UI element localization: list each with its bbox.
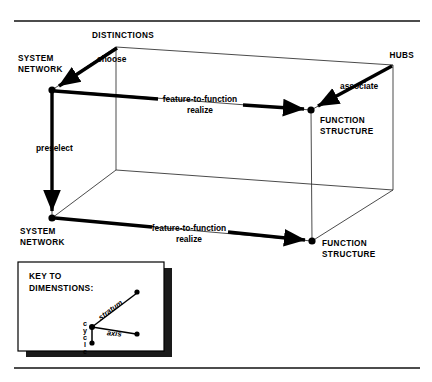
relation-label-realize-upper-line2: realize (187, 105, 213, 115)
relation-label-associate: associate (340, 81, 379, 91)
corner-label-top-front-right-line1: FUNCTION (320, 116, 365, 125)
relation-label-preselect: preselect (36, 143, 73, 153)
relation-label-realize-lower-line2: realize (176, 234, 202, 244)
vertex-dot-top-front-left (48, 86, 55, 93)
relation-label-realize-upper-line1: feature-to-function (163, 94, 237, 104)
vertex-dot-bottom-front-left (48, 214, 55, 221)
corner-label-top-back-right: HUBS (389, 51, 414, 60)
cube-connecting-edges (52, 47, 393, 241)
vertex-dot-bottom-front-right (308, 237, 315, 244)
key-axis-label-axis: axis (106, 328, 122, 338)
key-to-dimensions-panel: KEY TO DIMENSTIONS: stratum axis c (18, 262, 172, 357)
corner-label-bottom-front-left-line1: SYSTEM (20, 227, 56, 236)
corner-label-top-front-right-line2: STRUCTURE (320, 127, 374, 136)
key-axis-cycle-dot (89, 340, 94, 345)
corner-label-top-back-left: DISTINCTIONS (92, 31, 154, 40)
corner-label-bottom-front-left-line2: NETWORK (20, 238, 65, 247)
corner-label-bottom-front-right-line2: STRUCTURE (322, 250, 376, 259)
cube-front-face (52, 90, 312, 241)
corner-label-bottom-front-right-line1: FUNCTION (322, 239, 367, 248)
diagram-canvas: SYSTEM NETWORK DISTINCTIONS HUBS FUNCTIO… (0, 0, 432, 382)
relation-label-realize-lower-line1: feature-to-function (152, 223, 226, 233)
vertex-dot-top-front-right (307, 106, 314, 113)
key-axis-axis-dot (134, 331, 139, 336)
key-axis-label-cycle: c y c l e (83, 319, 87, 356)
figure-root: SYSTEM NETWORK DISTINCTIONS HUBS FUNCTIO… (0, 0, 432, 382)
corner-label-top-front-left-line2: NETWORK (18, 65, 63, 74)
key-title-line1: KEY TO (29, 271, 62, 281)
key-axis-label-cycle-letter-4: e (83, 347, 87, 356)
key-axis-stratum-dot (134, 289, 139, 294)
corner-label-top-front-left-line1: SYSTEM (18, 54, 54, 63)
relation-label-choose: choose (97, 54, 127, 64)
key-title-line2: DIMENSTIONS: (29, 283, 94, 293)
key-axis-origin-dot (89, 324, 95, 330)
